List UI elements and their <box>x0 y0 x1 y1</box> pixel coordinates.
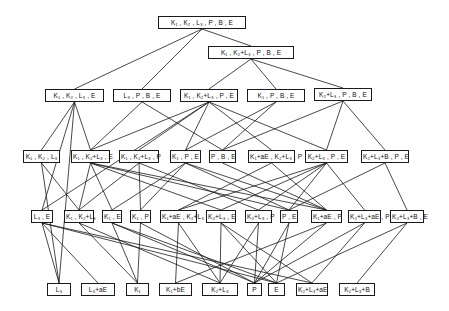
lattice-node: K₂+L₃ , P <box>245 210 272 223</box>
lattice-node: K₁ , P , B , E <box>247 89 305 102</box>
edge-n0-r2b <box>142 29 202 89</box>
edge-r4i-r5f <box>255 223 327 283</box>
edge-r2b-r3e <box>142 102 223 150</box>
edge-n1-r2c <box>209 59 251 89</box>
lattice-node: K₁ , K₂+L₃ , P , B , E <box>208 46 294 59</box>
edge-r3b-r4h <box>91 163 290 210</box>
lattice-node: K₂+L₃+B , E <box>390 210 424 223</box>
lattice-node: K₁ <box>126 283 149 296</box>
lattice-node: K₂+L₃ , P , B , E <box>314 88 372 101</box>
edge-r4g-r5f <box>255 223 259 283</box>
edge-r4a-r5g <box>42 223 277 283</box>
edge-r2e-r3e <box>223 101 344 150</box>
edge-r2e-r3g <box>327 101 344 150</box>
edge-r4f-r5h <box>221 223 312 283</box>
edge-r3g-r4h <box>289 163 327 210</box>
lattice-node: P <box>247 283 262 296</box>
edge-r3h-r4k <box>385 163 407 210</box>
lattice-node: K₂+L₃+B <box>339 283 375 296</box>
edge-r3b-r4i <box>91 163 327 210</box>
lattice-node: K₁ , P , E <box>170 150 201 163</box>
edge-n1-r2e <box>251 59 343 88</box>
edge-r4j-r5h <box>312 223 365 283</box>
lattice-node: K₁ , K₂+L₃ , P , E <box>180 89 238 102</box>
lattice-node: K₂+L₃+aE <box>296 283 328 296</box>
edge-n1-r2d <box>251 59 276 89</box>
lattice-node: K₁+bE <box>159 283 192 296</box>
lattice-node: K₁+aE , P <box>311 210 342 223</box>
lattice-node: L₃ , P , B , E <box>113 89 171 102</box>
edge-r3b-r4b <box>79 163 91 210</box>
lattice-node: K₂+L₃+aE , P <box>348 210 381 223</box>
edge-r2e-r3h <box>343 101 385 150</box>
lattice-node: P , B , E <box>209 150 236 163</box>
edge-r4j-r5f <box>255 223 365 283</box>
lattice-node: K₁ , E <box>102 210 122 223</box>
lattice-node: K₁ , K₂+L₃ , E <box>71 150 110 163</box>
lattice-node: K₁+aE , K₂+L₃ <box>160 210 197 223</box>
edge-r4f-r5g <box>221 223 277 283</box>
edge-r3a-r5a <box>42 163 60 283</box>
edge-n0-r2a <box>75 29 203 89</box>
lattice-node: P , E <box>280 210 298 223</box>
lattice-node: K₁ , K₂+L₃ , P <box>119 150 159 163</box>
lattice-node: L₃+aE <box>81 283 115 296</box>
edge-r4d-r5c <box>138 223 141 283</box>
edge-r3d-r4c <box>112 163 186 210</box>
lattice-node: L₃ <box>47 283 71 296</box>
lattice-node: K₁ , K₂+L₃ <box>64 210 94 223</box>
lattice-node: K₂+L₃ , P , E <box>305 150 348 163</box>
lattice-node: K₁ , K₂ , L₃ <box>23 150 60 163</box>
edge-r2a-r3a <box>42 102 75 150</box>
lattice-node: K₁+aE , K₂+L₃ , P <box>248 150 295 163</box>
edge-r3f-r4i <box>272 163 327 210</box>
lattice-node: K₂+L₃ , E <box>206 210 236 223</box>
edge-r2b-r3b <box>91 102 143 150</box>
lattice-node: K₁ , P <box>130 210 151 223</box>
edge-n0-n1 <box>202 29 251 46</box>
lattice-node: K₁ , K₂ , L₃ , P , B , E <box>158 16 246 29</box>
lattice-node: L₃ , E <box>31 210 53 223</box>
lattice-node: K₁ , K₂ , L₃ , E <box>45 89 104 102</box>
edge-r4k-r5i <box>357 223 407 283</box>
edge-r4k-r5g <box>277 223 408 283</box>
lattice-node: K₂+L₃+B , P , E <box>361 150 409 163</box>
edge-r4h-r5g <box>277 223 290 283</box>
edge-r4f-r5e <box>220 223 221 283</box>
edge-r3d-r4d <box>141 163 186 210</box>
lattice-diagram: K₁ , K₂ , L₃ , P , B , EK₁ , K₂+L₃ , P ,… <box>0 0 449 311</box>
edge-r3g-r4j <box>327 163 365 210</box>
edge-r2a-r3b <box>75 102 91 150</box>
edge-r4b-r5c <box>79 223 138 283</box>
lattice-node: K₂+L₃ <box>202 283 238 296</box>
lattice-node: E <box>268 283 285 296</box>
edge-r3c-r4d <box>139 163 141 210</box>
